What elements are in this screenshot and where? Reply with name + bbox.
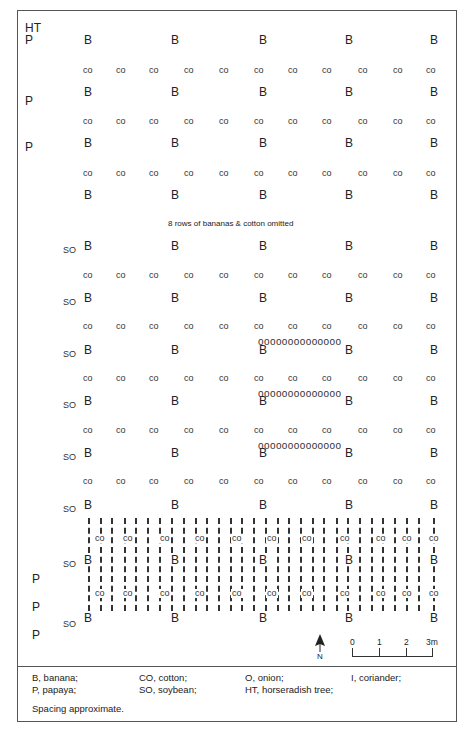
legend-coriander: I, coriander; [351, 672, 401, 683]
cotton-plant: co [219, 169, 229, 178]
banana-plant: B [84, 554, 92, 566]
coriander-row [206, 518, 208, 611]
cotton-plant: co [426, 117, 436, 126]
cotton-plant: co [426, 169, 436, 178]
papaya-label: P [32, 629, 40, 641]
cotton-plant: co [339, 589, 351, 598]
banana-plant: B [84, 292, 92, 304]
cotton-plant: co [322, 271, 332, 280]
banana-plant: B [259, 240, 267, 252]
cotton-plant: co [375, 589, 387, 598]
cotton-plant: co [266, 589, 278, 598]
banana-plant: B [171, 240, 179, 252]
cotton-plant: co [149, 322, 159, 331]
legend-cotton: CO, cotton; [139, 672, 187, 683]
cotton-plant: co [254, 477, 264, 486]
banana-plant: B [345, 292, 353, 304]
cotton-plant: co [83, 271, 93, 280]
cotton-plant: co [301, 589, 313, 598]
cotton-plant: co [358, 117, 368, 126]
cotton-plant: co [401, 589, 413, 598]
cotton-plant: co [393, 169, 403, 178]
cotton-plant: co [322, 374, 332, 383]
coriander-row [111, 518, 113, 611]
banana-plant: B [84, 612, 92, 624]
cotton-plant: co [288, 117, 298, 126]
cotton-plant: co [116, 117, 126, 126]
banana-plant: B [345, 189, 353, 201]
cotton-plant: co [149, 271, 159, 280]
soybean-label: SO [63, 298, 76, 307]
cotton-plant: co [426, 322, 436, 331]
coriander-row [418, 518, 420, 611]
cotton-plant: co [426, 374, 436, 383]
legend-banana: B, banana; [32, 672, 78, 683]
scale-tick [406, 648, 407, 656]
banana-plant: B [84, 34, 92, 46]
cotton-plant: co [254, 66, 264, 75]
cotton-plant: co [116, 322, 126, 331]
cotton-plant: co [159, 534, 171, 543]
cotton-plant: co [159, 589, 171, 598]
banana-plant: B [345, 86, 353, 98]
cotton-plant: co [393, 477, 403, 486]
banana-plant: B [345, 34, 353, 46]
cotton-plant: co [184, 426, 194, 435]
banana-plant: B [84, 447, 92, 459]
onion-row: oooooooooooooo [258, 441, 341, 451]
cotton-plant: co [184, 477, 194, 486]
cotton-plant: co [184, 271, 194, 280]
cotton-plant: co [194, 534, 206, 543]
cotton-plant: co [184, 322, 194, 331]
legend-soybean: SO, soybean; [139, 684, 197, 695]
banana-plant: B [430, 554, 438, 566]
cotton-plant: co [94, 589, 106, 598]
banana-plant: B [345, 344, 353, 356]
banana-plant: B [259, 292, 267, 304]
cotton-plant: co [116, 271, 126, 280]
cotton-plant: co [288, 169, 298, 178]
banana-plant: B [345, 395, 353, 407]
cotton-plant: co [83, 169, 93, 178]
cotton-plant: co [83, 322, 93, 331]
cotton-plant: co [254, 117, 264, 126]
cotton-plant: co [358, 374, 368, 383]
cotton-plant: co [219, 426, 229, 435]
cotton-plant: co [231, 534, 243, 543]
cotton-plant: co [83, 66, 93, 75]
legend-footnote: Spacing approximate. [32, 703, 124, 714]
cotton-plant: co [149, 426, 159, 435]
cotton-plant: co [184, 117, 194, 126]
cotton-plant: co [322, 477, 332, 486]
banana-plant: B [345, 612, 353, 624]
banana-plant: B [171, 86, 179, 98]
cotton-plant: co [149, 169, 159, 178]
banana-plant: B [345, 240, 353, 252]
banana-plant: B [259, 189, 267, 201]
cotton-plant: co [393, 374, 403, 383]
scale-label-3m: 3m [426, 637, 438, 647]
cotton-plant: co [288, 322, 298, 331]
scale-label-1: 1 [377, 637, 382, 647]
cotton-plant: co [94, 534, 106, 543]
cotton-plant: co [301, 534, 313, 543]
banana-plant: B [430, 612, 438, 624]
banana-plant: B [84, 395, 92, 407]
banana-plant: B [430, 292, 438, 304]
banana-plant: B [345, 499, 353, 511]
cotton-plant: co [254, 322, 264, 331]
cotton-plant: co [426, 426, 436, 435]
cotton-plant: co [116, 169, 126, 178]
cotton-plant: co [83, 374, 93, 383]
soybean-label: SO [63, 505, 76, 514]
cotton-plant: co [426, 477, 436, 486]
cotton-plant: co [393, 66, 403, 75]
coriander-row [359, 518, 361, 611]
coriander-row [394, 518, 396, 611]
banana-plant: B [430, 395, 438, 407]
cotton-plant: co [358, 426, 368, 435]
onion-row: oooooooooooooo [258, 389, 341, 399]
banana-plant: B [171, 292, 179, 304]
cotton-plant: co [254, 426, 264, 435]
coriander-row [336, 518, 338, 611]
